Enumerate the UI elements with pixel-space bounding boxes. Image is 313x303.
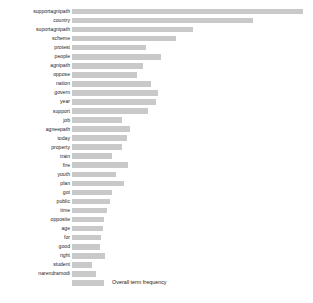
bar-track: [72, 9, 303, 15]
bar-row: public: [0, 197, 313, 206]
bar-track: [72, 172, 303, 178]
bar-category-label: people: [55, 52, 70, 61]
bar-row: student: [0, 260, 313, 269]
bar-row: train: [0, 152, 313, 161]
bar-fill: [72, 244, 100, 250]
bar-category-label: agneepath: [46, 125, 70, 134]
bar-category-label: scheme: [52, 34, 70, 43]
bar-track: [72, 54, 303, 60]
bar-track: [72, 208, 303, 214]
bar-fill: [72, 153, 112, 159]
bar-category-label: support: [53, 107, 70, 116]
bar-category-label: year: [60, 97, 70, 106]
bar-track: [72, 235, 303, 241]
bar-fill: [72, 144, 122, 150]
bar-row: year: [0, 97, 313, 106]
bar-category-label: right: [60, 251, 70, 260]
bar-row: time: [0, 206, 313, 215]
bar-track: [72, 99, 303, 105]
bar-row: opposite: [0, 215, 313, 224]
bar-fill: [72, 9, 303, 15]
bar-row: scheme: [0, 34, 313, 43]
bar-fill: [72, 72, 137, 78]
bar-row: suportagnipath: [0, 25, 313, 34]
bar-track: [72, 18, 303, 24]
bar-fill: [72, 217, 104, 223]
bar-category-label: good: [59, 242, 70, 251]
bar-track: [72, 36, 303, 42]
bar-category-label: plan: [60, 179, 70, 188]
bar-fill: [72, 271, 96, 277]
bar-row: protest: [0, 43, 313, 52]
bar-category-label: today: [57, 134, 70, 143]
bar-fill: [72, 172, 116, 178]
bar-row: property: [0, 143, 313, 152]
bar-row: got: [0, 188, 313, 197]
legend-label: Overall term frequency: [112, 278, 167, 287]
bar-fill: [72, 199, 110, 205]
bar-track: [72, 162, 303, 168]
bar-track: [72, 90, 303, 96]
bar-category-label: fire: [63, 161, 70, 170]
bar-category-label: time: [60, 206, 70, 215]
bar-row: plan: [0, 179, 313, 188]
bar-category-label: agnipath: [50, 61, 70, 70]
bar-fill: [72, 226, 103, 232]
bar-track: [72, 135, 303, 141]
bar-track: [72, 217, 303, 223]
bar-track: [72, 262, 303, 268]
bar-track: [72, 63, 303, 69]
bar-fill: [72, 63, 143, 69]
bar-track: [72, 117, 303, 123]
bar-fill: [72, 181, 124, 187]
bar-category-label: govern: [54, 88, 70, 97]
bar-track: [72, 27, 303, 33]
bar-row: right: [0, 251, 313, 260]
chart-legend: Overall term frequency: [72, 278, 167, 287]
bar-fill: [72, 90, 158, 96]
bar-fill: [72, 81, 151, 87]
bar-fill: [72, 262, 92, 268]
bar-category-label: public: [57, 197, 70, 206]
bar-row: for: [0, 233, 313, 242]
chart-plot-area: supportagnipathcountrysuportagnipathsche…: [0, 7, 313, 278]
bar-track: [72, 108, 303, 114]
bar-track: [72, 144, 303, 150]
bar-row: good: [0, 242, 313, 251]
bar-fill: [72, 18, 253, 24]
bar-row: today: [0, 134, 313, 143]
bar-track: [72, 72, 303, 78]
bar-fill: [72, 162, 128, 168]
bar-category-label: oppose: [53, 70, 70, 79]
bar-fill: [72, 27, 193, 33]
bar-category-label: student: [53, 260, 70, 269]
bar-category-label: property: [51, 143, 70, 152]
bar-category-label: for: [64, 233, 70, 242]
bar-track: [72, 153, 303, 159]
bar-category-label: age: [61, 224, 70, 233]
bar-track: [72, 253, 303, 259]
bar-category-label: job: [63, 116, 70, 125]
bar-row: country: [0, 16, 313, 25]
bar-fill: [72, 208, 107, 214]
bar-row: supportagnipath: [0, 7, 313, 16]
bar-row: agneepath: [0, 125, 313, 134]
bar-category-label: opposite: [51, 215, 70, 224]
bar-fill: [72, 108, 148, 114]
bar-category-label: narendramodi: [38, 269, 70, 278]
bar-row: youth: [0, 170, 313, 179]
bar-track: [72, 45, 303, 51]
bar-fill: [72, 135, 127, 141]
bar-row: nation: [0, 79, 313, 88]
bar-category-label: nation: [56, 79, 70, 88]
bar-row: job: [0, 116, 313, 125]
bar-fill: [72, 45, 146, 51]
bar-fill: [72, 54, 161, 60]
bar-category-label: got: [63, 188, 70, 197]
bar-track: [72, 126, 303, 132]
bar-fill: [72, 235, 101, 241]
bar-row: age: [0, 224, 313, 233]
bar-fill: [72, 117, 122, 123]
bar-category-label: suportagnipath: [36, 25, 70, 34]
bar-fill: [72, 190, 112, 196]
